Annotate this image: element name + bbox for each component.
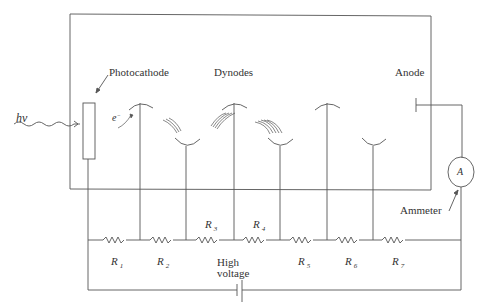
tube-enclosure [70,14,431,190]
electron-label: e− [112,112,121,123]
resistor-r2-label: R2 [157,256,169,270]
anode-label: Anode [395,67,424,78]
resistor-r3-icon [196,237,217,243]
dynode-4 [268,138,293,240]
dynode-3 [222,103,247,240]
ammeter-symbol: A [457,167,463,177]
resistor-r6-icon [336,237,357,243]
photon-label: hν [16,112,27,124]
anode [416,98,462,158]
resistor-r1-label: R1 [111,256,123,270]
resistor-r7-icon [382,237,403,243]
dynode-5 [315,103,340,240]
resistor-r2-icon [150,237,171,243]
pmt-diagram [0,0,487,307]
ammeter-label: Ammeter [400,205,442,216]
dynode-6 [362,138,386,240]
high-voltage-label-line2: voltage [217,268,249,279]
dynodes-label: Dynodes [214,67,253,78]
resistor-chain [88,237,461,243]
resistor-r4-label: R4 [253,219,265,233]
resistor-r6-label: R6 [345,256,357,270]
resistor-r3-label: R3 [205,219,217,233]
resistor-r4-icon [243,237,264,243]
photocathode [83,103,95,159]
resistor-r1-icon [103,237,124,243]
resistor-r5-icon [290,237,311,243]
dynode-1 [129,103,153,240]
resistor-r5-label: R5 [298,256,310,270]
resistor-r7-label: R7 [392,256,404,270]
photocathode-label: Photocathode [109,67,169,78]
electron-trajectories [118,113,282,134]
